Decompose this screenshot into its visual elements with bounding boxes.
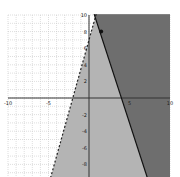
y-tick-label: 8 bbox=[84, 29, 87, 35]
y-tick-label: 6 bbox=[84, 45, 87, 51]
plotted-point bbox=[99, 30, 103, 34]
x-tick-label: 10 bbox=[167, 100, 173, 106]
y-tick-label: -2 bbox=[82, 112, 87, 118]
y-tick-label: 2 bbox=[84, 78, 87, 84]
y-tick-label: 10 bbox=[81, 12, 87, 18]
y-tick-label: -8 bbox=[82, 161, 87, 167]
inequality-graph: -10-5510108642-2-4-6-8 bbox=[0, 0, 180, 177]
x-tick-label: -5 bbox=[46, 100, 51, 106]
y-tick-label: -4 bbox=[82, 128, 87, 134]
x-tick-label: 5 bbox=[128, 100, 131, 106]
x-tick-label: -10 bbox=[4, 100, 12, 106]
y-tick-label: 4 bbox=[84, 62, 87, 68]
y-tick-label: -6 bbox=[82, 145, 87, 151]
